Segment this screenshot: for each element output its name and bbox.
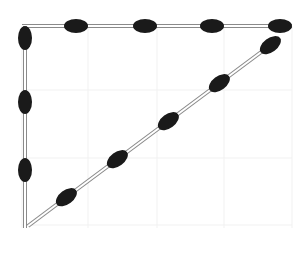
matchsticks xyxy=(18,19,292,228)
matchstick-top-4[interactable] xyxy=(224,19,292,33)
matchstick-diag-5[interactable] xyxy=(229,32,284,76)
matchstick-diag-1[interactable] xyxy=(28,184,80,226)
matchstick-diag-3[interactable] xyxy=(127,108,182,152)
match-head-icon xyxy=(200,19,224,33)
match-head-icon xyxy=(268,19,292,33)
matchstick-left-2[interactable] xyxy=(18,90,32,158)
match-head-icon xyxy=(64,19,88,33)
matchstick-top-3[interactable] xyxy=(157,19,224,33)
match-head-icon xyxy=(18,90,32,114)
matchstick-diag-2[interactable] xyxy=(76,146,131,190)
match-head-icon xyxy=(18,158,32,182)
matchstick-left-3[interactable] xyxy=(18,158,32,228)
match-head-icon xyxy=(133,19,157,33)
matchstick-top-1[interactable] xyxy=(22,19,88,33)
matchstick-left-1[interactable] xyxy=(18,26,32,90)
matchstick-diag-4[interactable] xyxy=(178,70,233,114)
matchstick-triangle-diagram xyxy=(0,0,303,253)
matchstick-top-2[interactable] xyxy=(88,19,157,33)
match-head-icon xyxy=(18,26,32,50)
